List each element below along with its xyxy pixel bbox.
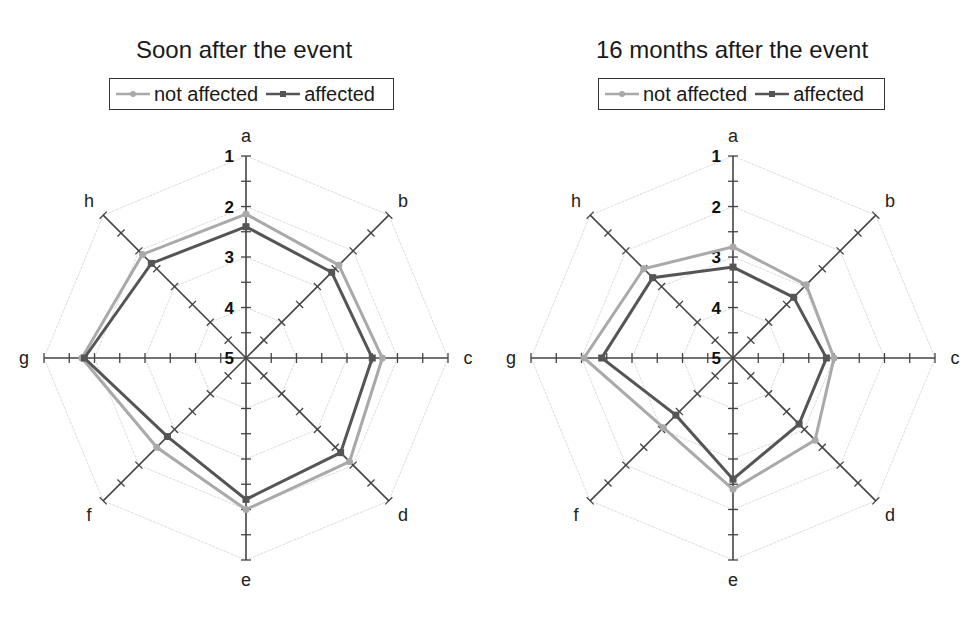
axis-label-d: d <box>885 505 895 525</box>
radar-chart: abcdefgh12345 <box>0 0 488 622</box>
tick-label: 2 <box>225 198 234 217</box>
axis-label-c: c <box>464 348 473 368</box>
radar-chart: abcdefgh12345 <box>488 0 976 622</box>
square-marker-icon <box>823 355 830 362</box>
tick-label: 5 <box>712 349 721 368</box>
tick-label: 2 <box>712 198 721 217</box>
radial-axes: abcdefgh <box>506 126 960 590</box>
square-marker-icon <box>649 274 656 281</box>
series-not-affected <box>581 243 838 492</box>
circle-marker-icon <box>243 506 250 513</box>
tick-label: 1 <box>712 147 721 166</box>
square-marker-icon <box>790 294 797 301</box>
square-marker-icon <box>243 223 250 230</box>
axis-label-a: a <box>728 126 739 146</box>
circle-marker-icon <box>812 437 819 444</box>
square-marker-icon <box>730 476 737 483</box>
axis-label-h: h <box>84 191 94 211</box>
square-marker-icon <box>337 449 344 456</box>
circle-marker-icon <box>730 243 737 250</box>
axis-label-d: d <box>398 505 408 525</box>
circle-marker-icon <box>660 424 667 431</box>
circle-marker-icon <box>243 211 250 218</box>
tick-label: 5 <box>225 349 234 368</box>
axis-label-h: h <box>571 191 581 211</box>
scale-tick-labels: 12345 <box>225 147 235 368</box>
axis-label-c: c <box>951 348 960 368</box>
square-marker-icon <box>796 421 803 428</box>
circle-marker-icon <box>831 355 838 362</box>
square-marker-icon <box>672 412 679 419</box>
axis-label-e: e <box>728 570 738 590</box>
axis-label-e: e <box>241 570 251 590</box>
circle-marker-icon <box>730 486 737 493</box>
square-marker-icon <box>730 264 737 271</box>
circle-marker-icon <box>139 251 146 258</box>
square-marker-icon <box>243 496 250 503</box>
tick-label: 4 <box>712 299 722 318</box>
axis-label-f: f <box>574 505 580 525</box>
circle-marker-icon <box>346 458 353 465</box>
circle-marker-icon <box>335 262 342 269</box>
square-marker-icon <box>598 355 605 362</box>
circle-marker-icon <box>803 281 810 288</box>
axis-label-a: a <box>241 126 252 146</box>
square-marker-icon <box>148 260 155 267</box>
axis-label-b: b <box>398 191 408 211</box>
tick-label: 4 <box>225 299 235 318</box>
scale-tick-labels: 12345 <box>712 147 722 368</box>
axis-label-g: g <box>19 348 29 368</box>
axis-label-g: g <box>506 348 516 368</box>
axis-label-b: b <box>885 191 895 211</box>
circle-marker-icon <box>640 265 647 272</box>
chart-panel-soon-after: Soon after the event not affected affect… <box>0 0 488 622</box>
circle-marker-icon <box>581 355 588 362</box>
square-marker-icon <box>81 355 88 362</box>
square-marker-icon <box>369 355 376 362</box>
axis-label-f: f <box>87 505 93 525</box>
series-affected <box>598 264 830 483</box>
tick-label: 1 <box>225 147 234 166</box>
square-marker-icon <box>164 433 171 440</box>
square-marker-icon <box>328 269 335 276</box>
circle-marker-icon <box>153 444 160 451</box>
tick-label: 3 <box>225 248 234 267</box>
circle-marker-icon <box>379 355 386 362</box>
chart-panel-16-months-after: 16 months after the event not affected a… <box>488 0 976 622</box>
